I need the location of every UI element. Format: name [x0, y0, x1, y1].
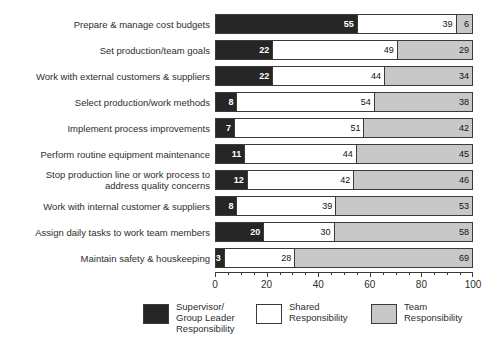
bar-segment-team: 29: [398, 41, 472, 59]
bar-segment-value: 39: [443, 19, 456, 29]
bar-segment-value: 58: [459, 227, 472, 237]
bar-segment-supervisor: 22: [216, 41, 272, 59]
bar-segment-team: 69: [295, 249, 472, 267]
chart-row: Prepare & manage cost budgets55396: [0, 11, 487, 37]
bar-segment-team: 38: [375, 93, 472, 111]
bar-segment-supervisor: 11: [216, 145, 244, 163]
x-axis-minor-tick: [434, 272, 435, 275]
bar-segment-value: 20: [250, 227, 263, 237]
bar-segment-supervisor: 8: [216, 93, 236, 111]
bar-segment-shared: 30: [263, 223, 334, 241]
bar-segment-supervisor: 20: [216, 223, 263, 241]
chart-row-bar: 203058: [215, 222, 473, 242]
bar-segment-value: 69: [459, 253, 472, 263]
x-axis-minor-tick: [344, 272, 345, 275]
bar-segment-value: 44: [343, 149, 356, 159]
bar-segment-team: 6: [457, 15, 472, 33]
x-axis-minor-tick: [241, 272, 242, 275]
chart-row: Assign daily tasks to work team members2…: [0, 219, 487, 245]
bar-segment-shared: 54: [236, 93, 374, 111]
bar-segment-value: 53: [459, 201, 472, 211]
bar-segment-supervisor: 3: [216, 249, 224, 267]
x-axis-major-tick: [370, 272, 371, 277]
bar-segment-shared: 39: [357, 15, 457, 33]
bar-segment-value: 3: [216, 253, 224, 263]
bar-segment-value: 6: [464, 19, 472, 29]
bar-segment-value: 42: [459, 123, 472, 133]
chart-row-label: Prepare & manage cost budgets: [5, 11, 210, 37]
x-axis-tick-label: 20: [261, 279, 272, 290]
chart-row-label: Work with external customers & suppliers: [5, 63, 210, 89]
chart-row-bar: 32869: [215, 248, 473, 268]
bar-segment-supervisor: 55: [216, 15, 357, 33]
bar-segment-shared: 49: [272, 41, 397, 59]
chart-row-label: Assign daily tasks to work team members: [5, 219, 210, 245]
x-axis-major-tick: [421, 272, 422, 277]
chart-row: Work with external customers & suppliers…: [0, 63, 487, 89]
bar-segment-value: 45: [459, 149, 472, 159]
bar-segment-value: 22: [259, 71, 272, 81]
legend-swatch-icon-team: [371, 304, 397, 324]
chart-row-label: Work with internal customer & suppliers: [5, 193, 210, 219]
bar-segment-value: 7: [226, 123, 234, 133]
legend-swatch-icon-shared: [256, 304, 282, 324]
bar-segment-value: 39: [322, 201, 335, 211]
bar-segment-shared: 42: [247, 171, 355, 189]
chart-row-bar: 85438: [215, 92, 473, 112]
chart-row-bar: 224434: [215, 66, 473, 86]
x-axis-minor-tick: [383, 272, 384, 275]
bar-segment-value: 11: [232, 149, 245, 159]
x-axis-major-tick: [318, 272, 319, 277]
legend-label-supervisor: Supervisor/ Group Leader Responsibility: [176, 300, 235, 334]
chart-row: Maintain safety & houskeeping32869: [0, 245, 487, 271]
bar-segment-value: 22: [259, 45, 272, 55]
chart-row-label: Stop production line or work process to …: [5, 167, 210, 193]
bar-segment-supervisor: 8: [216, 197, 236, 215]
chart-row: Perform routine equipment maintenance114…: [0, 141, 487, 167]
chart-row: Work with internal customer & suppliers8…: [0, 193, 487, 219]
chart-row-bar: 124246: [215, 170, 473, 190]
bar-segment-value: 30: [321, 227, 334, 237]
bar-segment-value: 38: [459, 97, 472, 107]
x-axis-tick-label: 100: [465, 279, 482, 290]
x-axis-major-tick: [472, 272, 473, 277]
chart-row-label: Implement process improvements: [5, 115, 210, 141]
bar-segment-value: 12: [234, 175, 247, 185]
x-axis-minor-tick: [254, 272, 255, 275]
bar-segment-team: 46: [354, 171, 472, 189]
chart-rows: Prepare & manage cost budgets55396Set pr…: [0, 11, 487, 271]
chart-row-label: Maintain safety & houskeeping: [5, 245, 210, 271]
bar-segment-shared: 44: [244, 145, 357, 163]
bar-segment-team: 42: [364, 119, 472, 137]
x-axis-major-tick: [215, 272, 216, 277]
chart-row-bar: 83953: [215, 196, 473, 216]
x-axis-minor-tick: [305, 272, 306, 275]
legend-label-team: Team Responsibility: [404, 300, 463, 323]
x-axis-minor-tick: [331, 272, 332, 275]
chart-title-clipped: [8, 0, 338, 7]
bar-segment-value: 55: [344, 19, 357, 29]
bar-segment-value: 44: [371, 71, 384, 81]
x-axis-tick-label: 60: [364, 279, 375, 290]
bar-segment-team: 34: [385, 67, 472, 85]
bar-segment-value: 42: [340, 175, 353, 185]
bar-segment-value: 28: [281, 253, 294, 263]
x-axis-minor-tick: [228, 272, 229, 275]
bar-segment-supervisor: 7: [216, 119, 234, 137]
x-axis-minor-tick: [447, 272, 448, 275]
legend-label-shared: Shared Responsibility: [289, 300, 348, 323]
x-axis-minor-tick: [460, 272, 461, 275]
x-axis-tick-label: 40: [313, 279, 324, 290]
chart-row-label: Set production/team goals: [5, 37, 210, 63]
bar-segment-team: 58: [335, 223, 472, 241]
x-axis-tick-label: 80: [416, 279, 427, 290]
legend-item-supervisor-group-leader-responsibility: Supervisor/ Group Leader Responsibility: [143, 300, 235, 334]
chart-row: Implement process improvements75142: [0, 115, 487, 141]
stacked-bar-chart: Prepare & manage cost budgets55396Set pr…: [0, 0, 487, 348]
bar-segment-value: 46: [459, 175, 472, 185]
bar-segment-value: 29: [459, 45, 472, 55]
x-axis: 020406080100: [215, 272, 473, 296]
bar-segment-shared: 44: [272, 67, 385, 85]
x-axis-minor-tick: [280, 272, 281, 275]
x-axis-minor-tick: [396, 272, 397, 275]
